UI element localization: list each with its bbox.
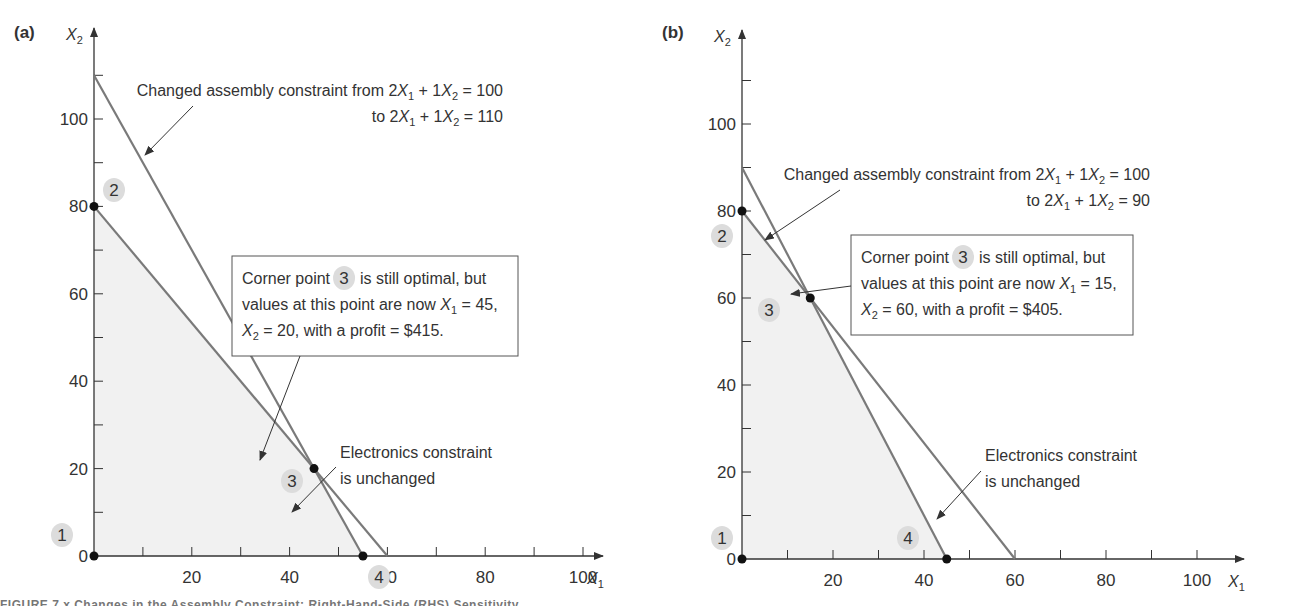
corner-point-badge-2: 2 [103, 178, 125, 202]
y-tick-label: 100 [60, 110, 88, 129]
x-tick-label: 80 [476, 568, 495, 587]
info-box-badge: 3 [333, 266, 355, 290]
info-box-badge: 3 [952, 245, 974, 269]
x-tick-label: 40 [280, 568, 299, 587]
badge-label: 1 [717, 529, 726, 548]
corner-point-badge-4: 4 [897, 526, 919, 550]
badge-label: 3 [958, 248, 967, 267]
badge-label: 3 [764, 301, 773, 320]
changed-constraint-text-line1: Changed assembly constraint from 2X1 + 1… [784, 166, 1150, 186]
corner-point [90, 202, 99, 211]
corner-point [942, 555, 951, 564]
y-tick-label: 60 [69, 285, 88, 304]
y-tick-label: 20 [717, 463, 736, 482]
x-axis-label: X1 [1227, 573, 1245, 593]
x-tick-label: 20 [182, 568, 201, 587]
y-tick-label: 0 [727, 550, 736, 569]
corner-point-badge-1: 1 [51, 523, 73, 547]
corner-point-badge-1: 1 [711, 526, 733, 550]
corner-point-badge-3: 3 [281, 469, 303, 493]
changed-constraint-arrow [765, 190, 840, 240]
info-box-line1: Corner point [242, 270, 331, 287]
panel-label: (a) [14, 23, 35, 42]
y-tick-label: 100 [708, 115, 736, 134]
corner-point [738, 555, 747, 564]
panel-a: 20406080100020406080100X1X2(a)1234Change… [14, 23, 604, 590]
changed-constraint-text-line2: to 2X1 + 1X2 = 90 [1027, 192, 1151, 212]
x-tick-label: 60 [1006, 571, 1025, 590]
x-tick-label: 40 [915, 571, 934, 590]
badge-label: 3 [339, 269, 348, 288]
badge-label: 3 [287, 472, 296, 491]
panel-b: 20406080100020406080100X1X2(b)1234Change… [662, 23, 1245, 593]
electronics-text-line2: is unchanged [340, 470, 435, 487]
electronics-text-line1: Electronics constraint [985, 447, 1138, 464]
changed-constraint-text-line2: to 2X1 + 1X2 = 110 [372, 108, 503, 128]
info-box-line1-rest: is still optimal, but [979, 249, 1106, 266]
badge-label: 1 [57, 526, 66, 545]
info-box-line1: Corner point [861, 249, 950, 266]
electronics-text-line2: is unchanged [985, 473, 1080, 490]
corner-point-badge-4: 4 [368, 565, 390, 589]
x-axis-label: X1 [586, 570, 604, 590]
badge-label: 4 [374, 568, 383, 587]
y-tick-label: 40 [717, 376, 736, 395]
y-tick-label: 20 [69, 460, 88, 479]
corner-point [310, 464, 319, 473]
corner-point [806, 294, 815, 303]
y-tick-label: 0 [79, 547, 88, 566]
changed-constraint-text-line1: Changed assembly constraint from 2X1 + 1… [137, 82, 503, 102]
electronics-text-line1: Electronics constraint [340, 444, 493, 461]
panel-label: (b) [662, 23, 684, 42]
electronics-arrow [937, 471, 981, 519]
corner-point-badge-3: 3 [758, 298, 780, 322]
lp-sensitivity-figure: 20406080100020406080100X1X2(a)1234Change… [0, 0, 1289, 613]
corner-point [738, 207, 747, 216]
info-box-line1-rest: is still optimal, but [360, 270, 487, 287]
y-tick-label: 80 [69, 197, 88, 216]
corner-point-badge-2: 2 [711, 224, 733, 248]
changed-constraint-arrow [145, 106, 193, 155]
y-axis-label: X2 [65, 26, 83, 46]
x-tick-label: 20 [824, 571, 843, 590]
y-tick-label: 60 [717, 289, 736, 308]
badge-label: 2 [717, 227, 726, 246]
corner-point [90, 552, 99, 561]
y-tick-label: 40 [69, 372, 88, 391]
x-tick-label: 80 [1097, 571, 1116, 590]
corner-point [358, 552, 367, 561]
y-axis-label: X2 [713, 28, 731, 48]
badge-label: 4 [903, 529, 912, 548]
badge-label: 2 [109, 181, 118, 200]
x-tick-label: 100 [1183, 571, 1211, 590]
y-tick-label: 80 [717, 202, 736, 221]
